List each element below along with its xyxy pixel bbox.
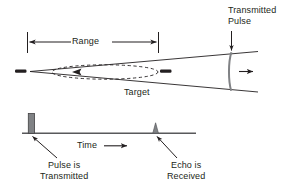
pulse-transmitted-label-line2: Transmitted — [40, 171, 88, 181]
echo-received-label: Echo isReceived — [167, 160, 205, 181]
antenna-dash-icon — [15, 70, 27, 73]
pulse-transmitted-leader — [33, 137, 58, 159]
range-label: Range — [72, 36, 99, 47]
transmitted-pulse-label-line2: Pulse — [228, 16, 251, 26]
echo-received-label-line1: Echo is — [171, 160, 201, 170]
left-arrow-icon — [72, 69, 82, 76]
target-dash-icon — [160, 70, 172, 73]
radar-range-diagram: Range Target TransmittedPulse Time Pulse… — [0, 0, 298, 188]
echo-received-label-line2: Received — [167, 171, 205, 181]
transmitted-pulse-label-line1: Transmitted — [228, 5, 276, 15]
dashed-ellipse-icon — [52, 65, 158, 79]
transmitted-pulse-bar — [28, 114, 34, 134]
echo-received-leader — [157, 137, 177, 159]
pulse-transmitted-label: Pulse isTransmitted — [40, 160, 88, 181]
beam-cone-upper-edge — [30, 52, 258, 72]
curved-arc-icon — [229, 52, 231, 91]
echo-spike — [153, 123, 159, 133]
pulse-transmitted-label-line1: Pulse is — [48, 160, 80, 170]
target-label: Target — [124, 87, 150, 98]
time-label: Time — [77, 140, 97, 151]
transmitted-pulse-label: TransmittedPulse — [228, 5, 276, 26]
